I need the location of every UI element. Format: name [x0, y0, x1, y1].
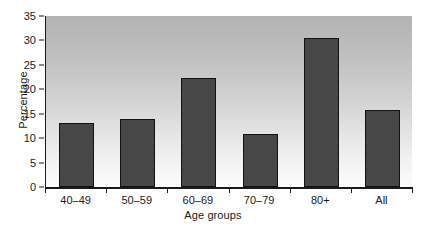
y-tick-mark: [39, 64, 44, 65]
y-tick-label: 20: [24, 84, 36, 95]
x-tick-mark: [229, 188, 230, 193]
x-tick-mark: [290, 188, 291, 193]
y-tick-label: 25: [24, 59, 36, 70]
y-tick-label: 30: [24, 35, 36, 46]
x-tick-label: 70–79: [244, 193, 275, 207]
x-tick-mark: [106, 188, 107, 193]
x-tick-label: 40–49: [60, 193, 91, 207]
y-tick-mark: [39, 187, 44, 188]
y-axis-ticks: 05101520253035: [0, 0, 44, 229]
x-tick-mark: [167, 188, 168, 193]
x-tick-mark: [351, 188, 352, 193]
y-tick-label: 5: [30, 157, 36, 168]
y-tick-mark: [39, 138, 44, 139]
bar-50-59: [120, 119, 155, 187]
x-tick-label: All: [375, 193, 387, 207]
x-tick-mark: [45, 188, 46, 193]
y-tick-label: 0: [30, 182, 36, 193]
y-tick-mark: [39, 16, 44, 17]
y-tick-mark: [39, 162, 44, 163]
bar-40-49: [59, 123, 94, 187]
y-tick-mark: [39, 40, 44, 41]
x-axis-title: Age groups: [0, 208, 426, 222]
bar-all: [365, 110, 400, 187]
y-tick-label: 10: [24, 133, 36, 144]
bar-60-69: [181, 78, 216, 187]
bar-chart-figure: Percentage 05101520253035 Age groups 40–…: [0, 0, 426, 229]
y-tick-label: 15: [24, 108, 36, 119]
y-tick-label: 35: [24, 11, 36, 22]
bar-70-79: [243, 134, 278, 187]
y-tick-mark: [39, 89, 44, 90]
x-tick-mark: [412, 188, 413, 193]
x-tick-label: 50–59: [121, 193, 152, 207]
y-tick-mark: [39, 113, 44, 114]
bar-80-: [304, 38, 339, 188]
x-tick-label: 60–69: [183, 193, 214, 207]
plot-area: [45, 16, 412, 187]
x-tick-label: 80+: [311, 193, 330, 207]
